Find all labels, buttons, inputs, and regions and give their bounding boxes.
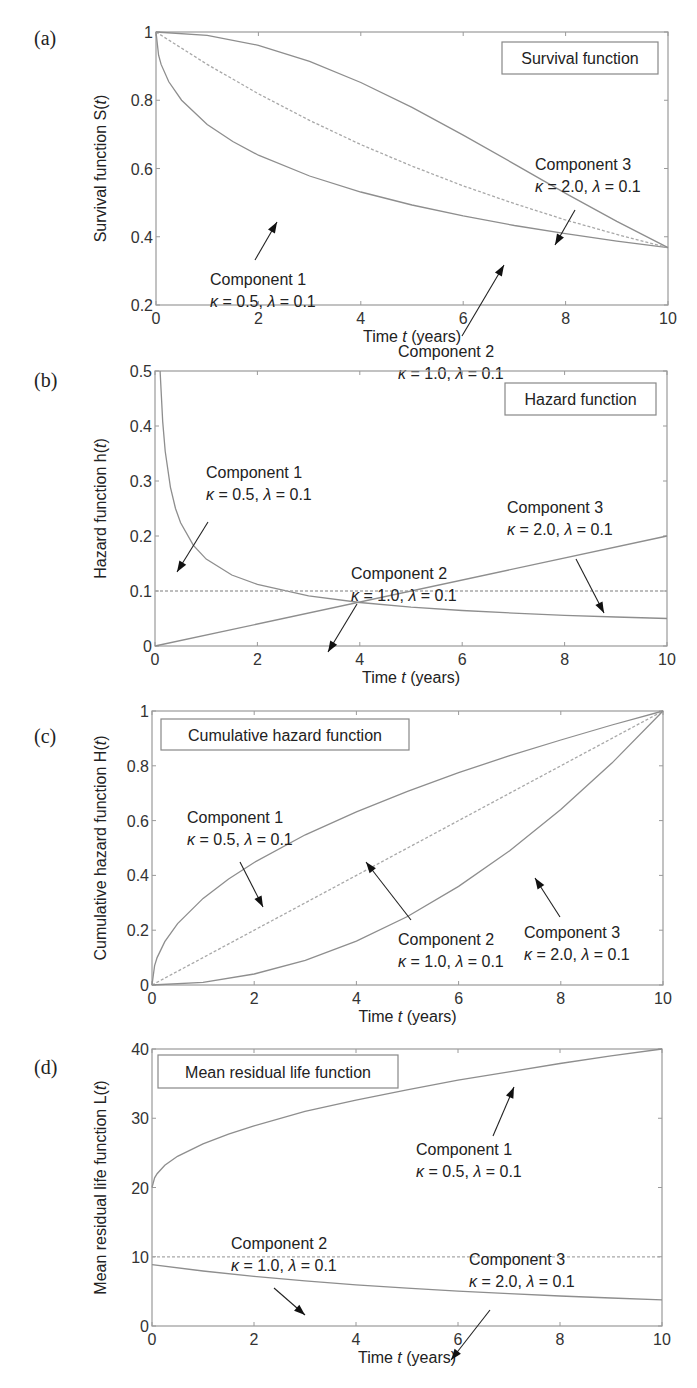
x-tick-label: 2 — [254, 310, 263, 327]
legend-box: Hazard function — [505, 383, 656, 415]
y-tick-label: 20 — [131, 1180, 149, 1197]
annotation-title: Component 2 — [351, 565, 447, 582]
y-tick-label: 0.6 — [127, 813, 149, 830]
annotation-params: κ = 2.0, λ = 0.1 — [535, 178, 641, 195]
chart-a: 02468100.20.40.60.81Time t (years)Surviv… — [92, 24, 677, 382]
x-tick-label: 8 — [561, 310, 570, 327]
annotation-component-3: Component 3κ = 2.0, λ = 0.1 — [507, 499, 613, 613]
x-tick-label: 6 — [458, 651, 467, 668]
chart-title: Cumulative hazard function — [188, 727, 382, 744]
x-tick-label: 4 — [355, 651, 364, 668]
arrowhead-icon — [506, 1087, 514, 1099]
annotation-params: κ = 1.0, λ = 0.1 — [231, 1257, 337, 1274]
annotation-component-1: Component 1κ = 0.5, λ = 0.1 — [416, 1087, 522, 1180]
annotation-title: Component 2 — [398, 931, 494, 948]
y-tick-label: 40 — [131, 1041, 149, 1058]
annotation-title: Component 1 — [416, 1141, 512, 1158]
annotation-title: Component 1 — [206, 464, 302, 481]
annotation-title: Component 1 — [210, 271, 306, 288]
arrowhead-icon — [177, 561, 186, 572]
annotation-params: κ = 0.5, λ = 0.1 — [210, 293, 316, 310]
annotation-params: κ = 1.0, λ = 0.1 — [398, 953, 504, 970]
annotation-params: κ = 0.5, λ = 0.1 — [187, 831, 293, 848]
x-tick-label: 8 — [556, 1331, 565, 1348]
arrow — [366, 862, 411, 920]
annotation-title: Component 2 — [231, 1235, 327, 1252]
legend-box: Mean residual life function — [158, 1055, 398, 1088]
annotation-component-2: Component 2κ = 1.0, λ = 0.1 — [366, 862, 504, 970]
y-tick-label: 0.1 — [130, 583, 152, 600]
x-tick-label: 4 — [352, 990, 361, 1007]
y-tick-label: 10 — [131, 1249, 149, 1266]
annotation-title: Component 1 — [187, 809, 283, 826]
y-tick-label: 0.4 — [127, 867, 149, 884]
arrowhead-icon — [555, 233, 564, 245]
x-axis-label: Time t (years) — [362, 669, 460, 686]
annotation-title: Component 3 — [524, 924, 620, 941]
chart-title: Mean residual life function — [185, 1064, 371, 1081]
x-tick-label: 10 — [653, 1331, 671, 1348]
y-axis-label: Mean residual life function L(t) — [92, 1080, 109, 1294]
annotation-title: Component 3 — [469, 1251, 565, 1268]
y-tick-label: 0.3 — [130, 473, 152, 490]
x-tick-label: 8 — [560, 651, 569, 668]
x-tick-label: 8 — [556, 990, 565, 1007]
annotation-params: κ = 1.0, λ = 0.1 — [351, 587, 457, 604]
arrowhead-icon — [595, 601, 604, 613]
chart-title: Survival function — [521, 50, 638, 67]
annotation-title: Component 3 — [507, 499, 603, 516]
legend-box: Cumulative hazard function — [161, 719, 409, 750]
y-tick-label: 0 — [140, 977, 149, 994]
x-tick-label: 2 — [250, 1331, 259, 1348]
x-tick-label: 10 — [659, 310, 677, 327]
annotation-component-1: Component 1κ = 0.5, λ = 0.1 — [210, 222, 316, 310]
y-tick-label: 0.5 — [130, 363, 152, 380]
y-tick-label: 0.2 — [127, 922, 149, 939]
y-tick-label: 0.6 — [131, 161, 153, 178]
y-tick-label: 0.4 — [130, 418, 152, 435]
x-axis-label: Time t (years) — [358, 1008, 456, 1025]
y-tick-label: 30 — [131, 1110, 149, 1127]
y-tick-label: 0.2 — [131, 297, 153, 314]
annotation-component-1: Component 1κ = 0.5, λ = 0.1 — [187, 809, 293, 907]
chart-d: 0246810010203040Time t (years)Mean resid… — [92, 1041, 671, 1366]
annotation-params: κ = 0.5, λ = 0.1 — [416, 1163, 522, 1180]
arrowhead-icon — [268, 222, 277, 234]
x-tick-label: 2 — [253, 651, 262, 668]
x-tick-label: 2 — [250, 990, 259, 1007]
plots-canvas: 02468100.20.40.60.81Time t (years)Surviv… — [0, 0, 697, 1388]
annotation-params: κ = 1.0, λ = 0.1 — [398, 365, 504, 382]
x-tick-label: 6 — [459, 310, 468, 327]
annotation-params: κ = 0.5, λ = 0.1 — [206, 486, 312, 503]
x-tick-label: 6 — [454, 1331, 463, 1348]
y-tick-label: 0 — [140, 1318, 149, 1335]
chart-c: 024681000.20.40.60.81Time t (years)Cumul… — [92, 703, 672, 1025]
arrow — [462, 265, 504, 336]
y-axis-label: Hazard function h(t) — [92, 438, 109, 579]
legend-box: Survival function — [502, 42, 658, 74]
x-axis-label: Time t (years) — [358, 1349, 456, 1366]
annotation-params: κ = 2.0, λ = 0.1 — [524, 946, 630, 963]
annotation-title: Component 3 — [535, 156, 631, 173]
annotation-component-3: Component 3κ = 2.0, λ = 0.1 — [524, 878, 630, 963]
arrowhead-icon — [535, 878, 544, 889]
y-axis-label: Survival function S(t) — [92, 95, 109, 243]
arrowhead-icon — [366, 862, 376, 873]
x-tick-label: 4 — [356, 310, 365, 327]
chart-b: 024681000.10.20.30.40.5Time t (years)Haz… — [92, 363, 676, 686]
y-axis-label: Cumulative hazard function H(t) — [92, 736, 109, 961]
y-tick-label: 1 — [140, 703, 149, 720]
x-tick-label: 10 — [654, 990, 672, 1007]
annotation-params: κ = 2.0, λ = 0.1 — [507, 521, 613, 538]
x-tick-label: 4 — [352, 1331, 361, 1348]
annotation-params: κ = 2.0, λ = 0.1 — [469, 1273, 575, 1290]
arrowhead-icon — [254, 895, 263, 907]
y-tick-label: 0.8 — [127, 758, 149, 775]
x-tick-label: 6 — [454, 990, 463, 1007]
y-tick-label: 0.8 — [131, 92, 153, 109]
x-tick-label: 10 — [658, 651, 676, 668]
arrowhead-icon — [495, 265, 504, 277]
y-tick-label: 0.4 — [131, 229, 153, 246]
chart-title: Hazard function — [524, 391, 636, 408]
annotation-title: Component 2 — [398, 343, 494, 360]
